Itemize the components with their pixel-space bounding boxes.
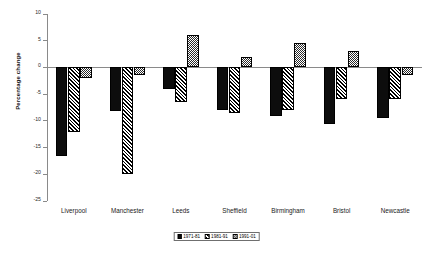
legend-item: 1981-91: [205, 234, 228, 239]
plot-area: [47, 14, 422, 201]
bar: [241, 57, 253, 68]
bar-group: [377, 14, 413, 201]
x-axis-category-label: Manchester: [101, 207, 155, 215]
y-axis-tick-label: 10: [35, 9, 41, 15]
y-axis-tick-label: 0: [38, 62, 41, 68]
legend-swatch: [233, 234, 238, 239]
bar: [80, 67, 92, 78]
bar: [175, 67, 187, 102]
y-axis-tick-label: -10: [34, 116, 42, 122]
y-axis-tick-label: -5: [36, 89, 41, 95]
bar: [270, 67, 282, 115]
bar-group: [270, 14, 306, 201]
bar: [68, 67, 80, 131]
bar-group: [163, 14, 199, 201]
x-axis-category-label: Newcastle: [368, 207, 422, 215]
bar: [56, 67, 68, 155]
bar: [402, 67, 414, 75]
legend-item: 1971-81: [177, 234, 200, 239]
bar: [187, 35, 199, 67]
y-axis-tick-label: -20: [34, 169, 42, 175]
bar: [324, 67, 336, 123]
bar: [134, 67, 146, 75]
bar-chart: Percentage change 1050-5-10-15-20-25 Liv…: [0, 0, 433, 253]
bar-group: [324, 14, 360, 201]
chart-legend: 1971-811981-911991-01: [173, 232, 260, 241]
y-axis-title: Percentage change: [15, 21, 21, 141]
bar-group: [110, 14, 146, 201]
x-axis-category-label: Birmingham: [261, 207, 315, 215]
bar: [110, 67, 122, 111]
bar: [163, 67, 175, 88]
y-axis-tick-label: -15: [34, 143, 42, 149]
legend-item: 1991-01: [233, 234, 256, 239]
bar: [336, 67, 348, 99]
y-axis-tick-label: 5: [38, 36, 41, 42]
x-axis-category-label: Leeds: [154, 207, 208, 215]
y-axis-tick-label: -25: [34, 196, 42, 202]
bar-group: [56, 14, 92, 201]
legend-swatch: [177, 234, 182, 239]
bar: [229, 67, 241, 112]
bar: [348, 51, 360, 67]
bar: [389, 67, 401, 99]
x-axis-category-label: Bristol: [315, 207, 369, 215]
legend-swatch: [205, 234, 210, 239]
x-axis-category-label: Liverpool: [47, 207, 101, 215]
bar-group: [217, 14, 253, 201]
bar: [122, 67, 134, 174]
x-axis-category-label: Sheffield: [208, 207, 262, 215]
bar: [282, 67, 294, 110]
bar: [377, 67, 389, 118]
bar: [294, 43, 306, 67]
legend-label: 1991-01: [239, 234, 256, 239]
bar: [217, 67, 229, 110]
legend-label: 1981-91: [211, 234, 228, 239]
legend-label: 1971-81: [183, 234, 200, 239]
